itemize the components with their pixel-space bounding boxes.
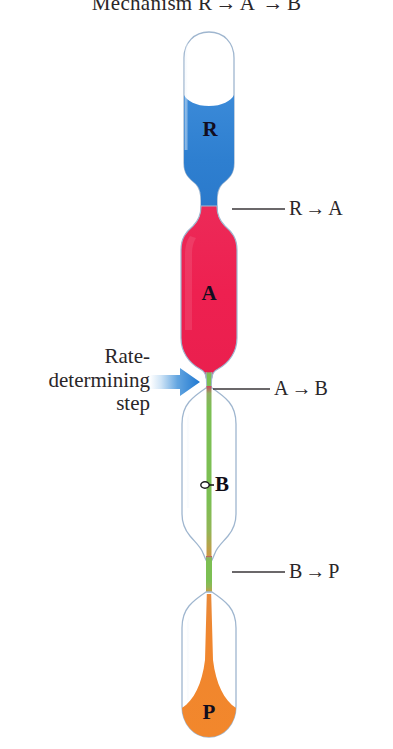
step-3-to: P	[328, 560, 339, 582]
vessel-label-A: A	[181, 283, 237, 304]
neck-b-to-p	[206, 556, 212, 596]
rate-determining-arrow-icon	[150, 368, 200, 396]
step-1-from: R	[289, 197, 302, 219]
rate-determining-caption: Rate- determining step	[0, 345, 150, 416]
step-3-from: B	[289, 560, 302, 582]
step-label-a-to-b: A→B	[274, 378, 328, 398]
vessel-label-B: B	[215, 474, 245, 495]
step-1-to: A	[328, 197, 342, 219]
step-label-b-to-p: B→P	[289, 561, 339, 581]
neck-b-to-p-fill	[206, 556, 212, 596]
rds-line-1: Rate-	[0, 345, 150, 369]
step-3-arrow-icon: →	[305, 561, 325, 581]
vessel-label-P: P	[182, 702, 236, 723]
step-label-r-to-a: R→A	[289, 198, 343, 218]
step-2-arrow-icon: →	[291, 378, 311, 398]
capillary-thread-fill	[207, 386, 212, 572]
rds-line-2: determining	[0, 369, 150, 393]
capillary-thread-green	[207, 386, 212, 572]
vessel-label-R: R	[184, 119, 236, 140]
step-2-from: A	[274, 377, 288, 399]
step-2-to: B	[314, 377, 327, 399]
vessel-R-fill	[184, 95, 234, 213]
step-1-arrow-icon: →	[305, 198, 325, 218]
mechanism-diagram: Mechanism R→A →B	[0, 0, 393, 749]
rds-line-3: step	[0, 392, 150, 416]
